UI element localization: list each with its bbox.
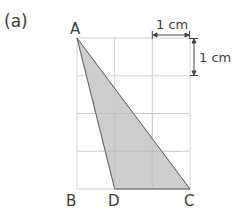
vertex-c-label: C xyxy=(184,194,194,209)
vertical-scale-label: 1 cm xyxy=(199,51,231,64)
vertical-scale-arrow xyxy=(190,39,198,76)
horizontal-scale-label: 1 cm xyxy=(156,18,188,31)
vertex-d-label: D xyxy=(108,194,120,209)
vertex-a-label: A xyxy=(70,22,80,37)
diagram-canvas xyxy=(0,0,242,223)
vertex-b-label: B xyxy=(66,194,76,209)
